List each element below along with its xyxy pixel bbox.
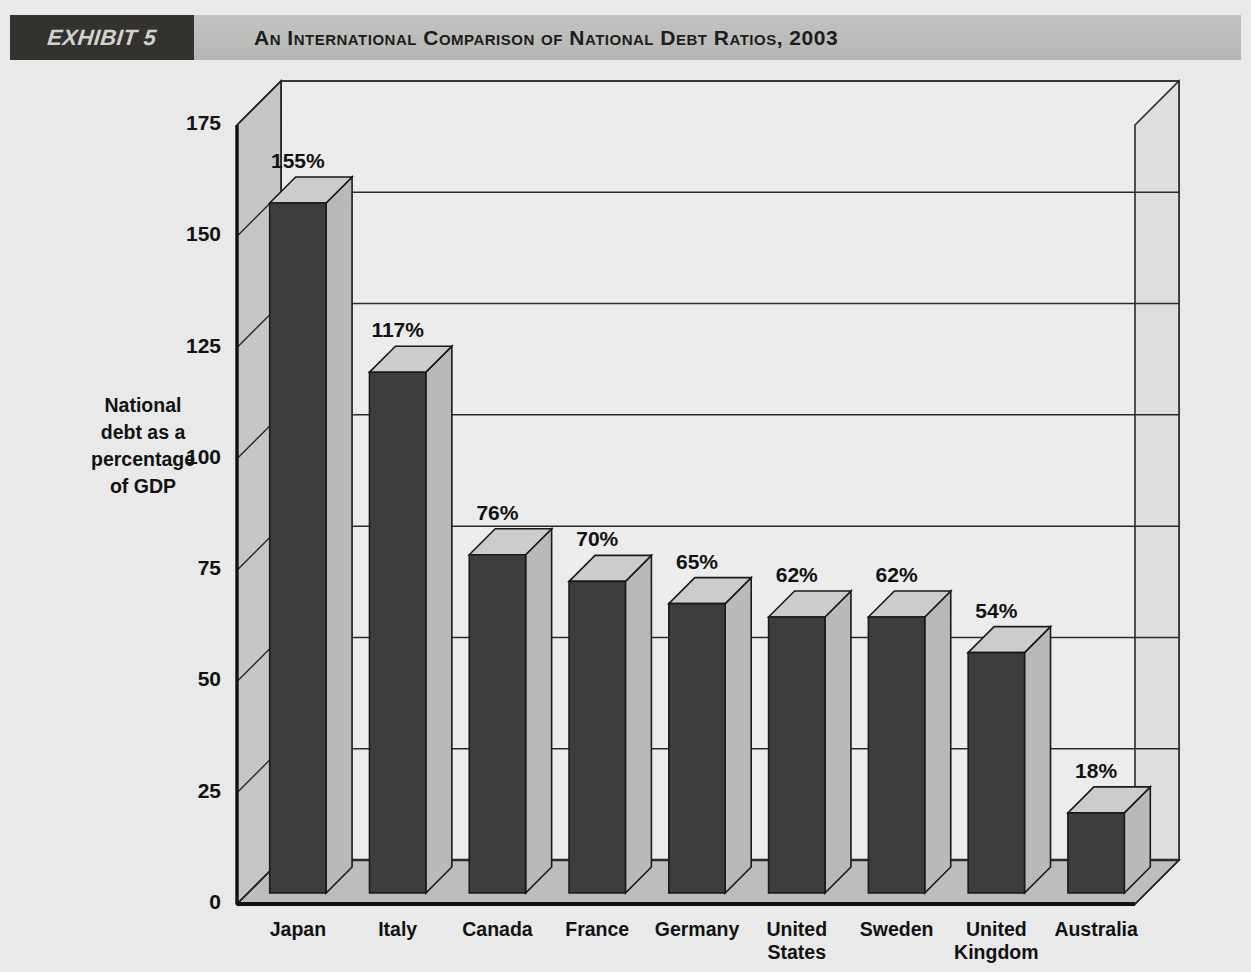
bar-value-label-france: 70% <box>542 527 652 551</box>
bar-value-label-united-states: 62% <box>742 563 852 587</box>
y-tick-label-0: 0 <box>141 890 221 914</box>
y-tick-label-150: 150 <box>141 222 221 246</box>
bar-front-australia <box>1068 813 1124 893</box>
bar-front-japan <box>270 203 326 893</box>
exhibit-title: An International Comparison of National … <box>254 15 838 60</box>
y-axis-title-line: percentage <box>58 446 228 473</box>
y-axis-title-line: National <box>58 392 228 419</box>
bar-front-italy <box>369 372 425 893</box>
x-tick-label-line: Australia <box>1026 918 1166 941</box>
x-tick-label-line: Kingdom <box>926 941 1066 964</box>
x-tick-label-line: States <box>727 941 867 964</box>
bar-value-label-germany: 65% <box>642 550 752 574</box>
y-tick-label-25: 25 <box>141 779 221 803</box>
exhibit-title-strip: An International Comparison of National … <box>194 15 1241 60</box>
exhibit-number-tab: EXHIBIT 5 <box>10 15 194 60</box>
bar-front-germany <box>669 604 725 893</box>
x-tick-label-australia: Australia <box>1026 918 1166 941</box>
bar-side-france <box>625 555 651 893</box>
bar-side-united-states <box>825 591 851 893</box>
y-axis-title-line: of GDP <box>58 473 228 500</box>
bar-front-canada <box>469 555 525 893</box>
bar-value-label-united-kingdom: 54% <box>941 599 1051 623</box>
bar-side-italy <box>426 346 452 893</box>
bar-value-label-canada: 76% <box>442 501 552 525</box>
bar-front-sweden <box>868 617 924 893</box>
bar-value-label-japan: 155% <box>243 149 353 173</box>
bar-value-label-sweden: 62% <box>842 563 952 587</box>
bar-value-label-italy: 117% <box>343 318 453 342</box>
exhibit-header: EXHIBIT 5 An International Comparison of… <box>0 15 1251 60</box>
bar-side-germany <box>725 578 751 893</box>
chart-container: 0255075100125150175JapanItalyCanadaFranc… <box>0 62 1251 972</box>
bar-front-united-kingdom <box>968 653 1024 893</box>
exhibit-number-label: EXHIBIT 5 <box>8 15 197 60</box>
bar-front-united-states <box>769 617 825 893</box>
bar-side-canada <box>526 529 552 893</box>
bar-chart-3d <box>0 62 1251 972</box>
y-tick-label-175: 175 <box>141 111 221 135</box>
bar-side-japan <box>326 177 352 893</box>
y-axis-title-line: debt as a <box>58 419 228 446</box>
bar-front-france <box>569 581 625 893</box>
bar-side-sweden <box>925 591 951 893</box>
y-tick-label-125: 125 <box>141 334 221 358</box>
y-tick-label-75: 75 <box>141 556 221 580</box>
y-tick-label-50: 50 <box>141 667 221 691</box>
y-axis-title: Nationaldebt as apercentageof GDP <box>58 392 228 500</box>
bar-value-label-australia: 18% <box>1041 759 1151 783</box>
